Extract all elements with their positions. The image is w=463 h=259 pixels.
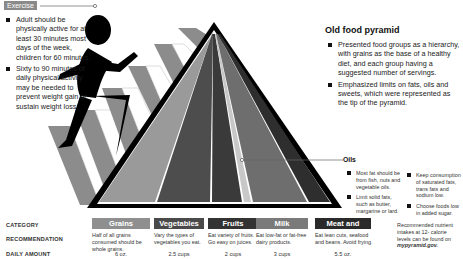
- exercise-tag: Exercise: [4, 1, 37, 10]
- nutrient-note: Recommended nutrient intakes at 12- calo…: [397, 222, 461, 249]
- oils-col1: Most fat should be from fish, nuts and v…: [347, 170, 402, 219]
- row-label-recommendation: RECOMMENDATION: [6, 236, 63, 242]
- oils-bullet: Choose foods low in added sugar.: [407, 203, 461, 217]
- category-grains: Grains: [92, 218, 150, 229]
- mypyramid-link[interactable]: mypyramid.gov.: [397, 242, 438, 248]
- recommendation-milk: Eat low-fat or fat-free dairy products.: [256, 232, 310, 246]
- old-pyramid-bullet: Emphasized limits on fats, oils and swee…: [328, 80, 460, 108]
- nutrient-note-text: Recommended nutrient intakes at 12- calo…: [397, 222, 453, 242]
- recommendation-meat-and-beans: Eat lean cuts, seafood and beans. Avoid …: [315, 232, 373, 246]
- oils-bullet: Limit solid fats, such as butter, margar…: [347, 194, 402, 214]
- amount-meat-and-beans: 5.5 oz.: [315, 251, 371, 257]
- row-label-category: CATEGORY: [6, 222, 39, 228]
- row-label-daily-amount: DAILY AMOUNT: [6, 251, 50, 257]
- amount-fruits: 2 cups: [208, 251, 258, 257]
- amount-milk: 3 cups: [256, 251, 308, 257]
- old-pyramid-bullets: Presented food groups as a hierarchy, wi…: [328, 40, 460, 110]
- recommendation-grains: Half of all grains consumed should be wh…: [92, 232, 154, 252]
- oils-bullet: Most fat should be from fish, nuts and v…: [347, 170, 402, 190]
- old-pyramid-bullet: Presented food groups as a hierarchy, wi…: [328, 40, 460, 78]
- amount-vegetables: 2.5 cups: [154, 251, 204, 257]
- exercise-bullets: Adult should be physically active for at…: [6, 15, 94, 113]
- oils-bullet: Keep consumption of saturated fats, tran…: [407, 172, 461, 199]
- category-fruits: Fruits: [208, 218, 258, 229]
- amount-grains: 6 oz.: [92, 251, 150, 257]
- category-vegetables: Vegetables: [154, 218, 204, 229]
- category-meat-and-beans: Meat and beans: [315, 218, 371, 229]
- old-pyramid-title: Old food pyramid: [325, 25, 400, 35]
- category-milk: Milk: [256, 218, 308, 229]
- oils-col2: Keep consumption of saturated fats, tran…: [407, 172, 461, 221]
- oils-label: Oils: [343, 156, 356, 163]
- recommendation-vegetables: Vary the types of vegetables you eat.: [154, 232, 208, 246]
- exercise-bullet: Sixty to 90 minutes of daily physical ac…: [6, 64, 94, 111]
- exercise-bullet: Adult should be physically active for at…: [6, 15, 94, 62]
- recommendation-fruits: Eat variety of fruits. Go easy on juices…: [208, 232, 262, 246]
